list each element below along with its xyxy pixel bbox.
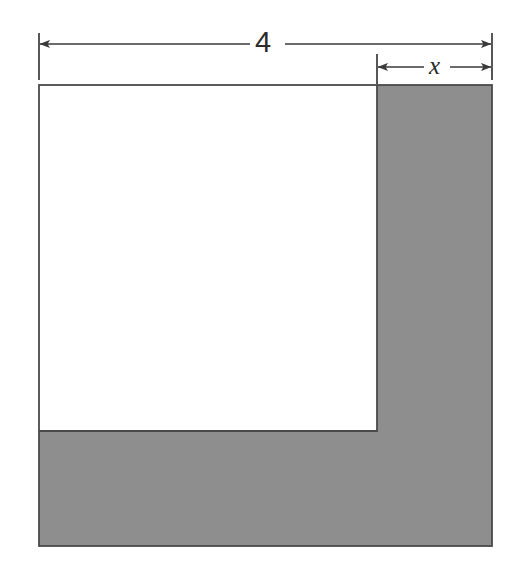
strip-width-label: x bbox=[429, 53, 440, 78]
shaded-region-group bbox=[39, 85, 492, 546]
figure-canvas bbox=[0, 0, 508, 570]
geometry-figure: 4 x bbox=[0, 0, 508, 570]
inner-white-region bbox=[39, 85, 377, 431]
total-width-label: 4 bbox=[255, 28, 271, 57]
